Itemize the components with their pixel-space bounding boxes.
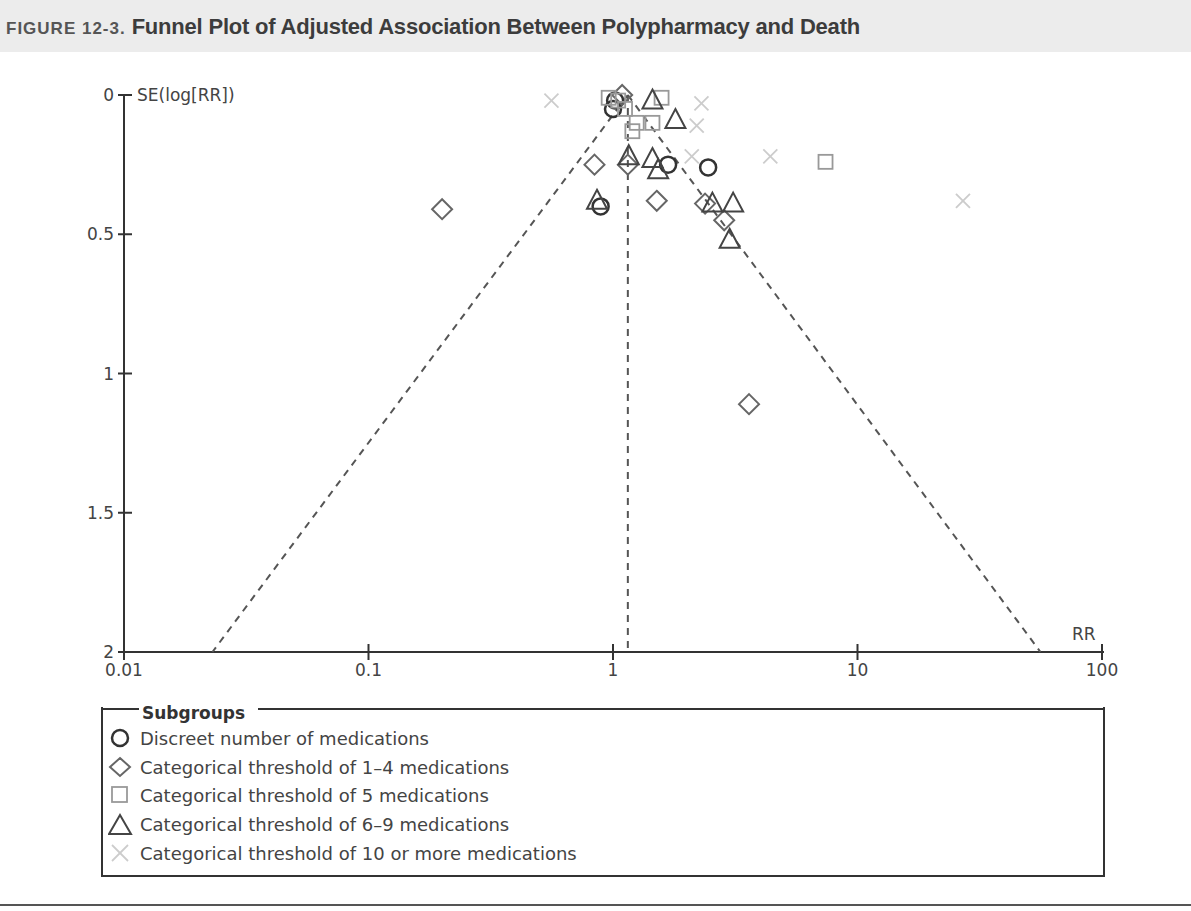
y-tick-label: 0.5 [87, 224, 114, 244]
y-axis-label: SE(log[RR]) [137, 85, 235, 105]
legend-label: Categorical threshold of 1–4 medications [140, 757, 509, 778]
legend-item-diamond: Categorical threshold of 1–4 medications [108, 756, 509, 778]
square-icon [108, 784, 134, 806]
legend-item-circle: Discreet number of medications [108, 727, 429, 749]
legend-item-cross: Categorical threshold of 10 or more medi… [108, 842, 577, 864]
legend-border-right [258, 708, 1105, 710]
cross-icon [108, 842, 134, 864]
funnel-plot: 00.511.52 0.010.1110100 SE(log[RR]) RR [0, 0, 1191, 700]
y-tick-label: 1 [103, 364, 114, 384]
funnel-lines [212, 95, 1040, 652]
square-point [630, 116, 644, 130]
triangle-point [648, 159, 668, 178]
triangle-point [642, 90, 662, 109]
x-tick-label: 100 [1086, 660, 1118, 680]
diamond-point [647, 191, 667, 211]
triangle-icon [108, 813, 134, 835]
data-points [432, 85, 970, 414]
y-tick-label: 1.5 [87, 503, 114, 523]
x-tick-label: 0.1 [355, 660, 382, 680]
diamond-point [714, 210, 734, 230]
cross-point [685, 149, 699, 163]
y-ticks: 00.511.52 [87, 85, 132, 662]
legend-item-square: Categorical threshold of 5 medications [108, 784, 489, 806]
triangle-point [723, 193, 743, 212]
legend-title: Subgroups [140, 703, 249, 723]
square-point [819, 155, 833, 169]
x-tick-label: 1 [608, 660, 619, 680]
cross-point [763, 149, 777, 163]
legend-border-left [101, 708, 139, 710]
diamond-point [584, 155, 604, 175]
legend-item-triangle: Categorical threshold of 6–9 medications [108, 813, 509, 835]
x-tick-label: 0.01 [105, 660, 143, 680]
cross-point [544, 94, 558, 108]
legend-label: Categorical threshold of 10 or more medi… [140, 843, 577, 864]
diamond-point [739, 394, 759, 414]
legend-label: Categorical threshold of 5 medications [140, 785, 489, 806]
x-axis-label: RR [1072, 624, 1096, 644]
triangle-point [665, 109, 685, 128]
diamond-icon [108, 756, 134, 778]
y-tick-label: 2 [103, 642, 114, 662]
circle-icon [108, 727, 134, 749]
cross-point [694, 96, 708, 110]
legend-label: Discreet number of medications [140, 728, 429, 749]
legend-label: Categorical threshold of 6–9 medications [140, 814, 509, 835]
x-tick-label: 10 [847, 660, 869, 680]
x-ticks: 0.010.1110100 [105, 644, 1118, 680]
circle-point [700, 159, 716, 175]
cross-point [690, 119, 704, 133]
circle-point [660, 157, 676, 173]
diamond-point [432, 199, 452, 219]
cross-point [956, 194, 970, 208]
bottom-rule [0, 904, 1191, 906]
y-tick-label: 0 [103, 85, 114, 105]
